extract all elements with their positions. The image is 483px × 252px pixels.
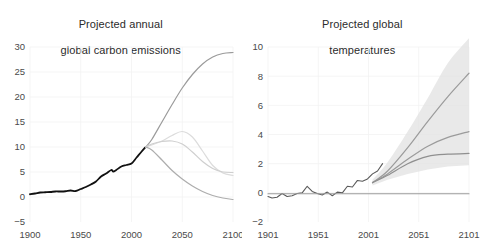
data-series-line	[30, 147, 146, 194]
y-axis-tick-label: 2	[257, 158, 262, 169]
panel-global-temperatures: Projected global temperatures −202468101…	[242, 0, 483, 252]
x-axis-tick-label: 1951	[307, 229, 328, 240]
x-axis-tick-label: 1950	[70, 229, 91, 240]
y-axis-tick-label: 0	[257, 187, 262, 198]
y-axis-tick-label: 25	[14, 66, 25, 77]
y-axis-tick-label: 30	[14, 41, 25, 52]
y-axis-tick-label: −2	[252, 216, 263, 227]
y-axis-tick-label: −5	[14, 216, 25, 227]
x-axis-tick-label: 1900	[19, 229, 40, 240]
y-axis-tick-label: 6	[257, 100, 262, 111]
x-axis-tick-label: 1901	[257, 229, 278, 240]
y-axis-tick-label: 15	[14, 116, 25, 127]
plot-area-global-temperatures: −2024681019011951200120512101	[242, 0, 483, 252]
axis-labels: −505101520253019001950200020502100	[14, 41, 241, 240]
x-axis-tick-label: 2000	[121, 229, 142, 240]
x-axis-tick-label: 2101	[458, 229, 479, 240]
gridlines	[30, 47, 233, 222]
x-axis-tick-label: 2050	[172, 229, 193, 240]
y-axis-tick-label: 0	[20, 191, 25, 202]
x-axis-tick-label: 2100	[222, 229, 241, 240]
x-axis-tick-label: 2001	[357, 229, 378, 240]
x-axis-tick-label: 2051	[408, 229, 429, 240]
panel-carbon-emissions: Projected annual global carbon emissions…	[0, 0, 242, 252]
data-series-line	[146, 147, 233, 200]
uncertainty-band	[372, 38, 468, 185]
data-series-line	[146, 53, 233, 148]
data-series-line	[146, 131, 233, 175]
y-axis-tick-label: 10	[252, 41, 263, 52]
y-axis-tick-label: 4	[257, 129, 262, 140]
two-panel-climate-figure: Projected annual global carbon emissions…	[0, 0, 483, 252]
y-axis-tick-label: 8	[257, 71, 262, 82]
y-axis-tick-label: 20	[14, 91, 25, 102]
y-axis-tick-label: 10	[14, 141, 25, 152]
plot-area-carbon-emissions: −505101520253019001950200020502100	[0, 0, 242, 252]
y-axis-tick-label: 5	[20, 166, 25, 177]
